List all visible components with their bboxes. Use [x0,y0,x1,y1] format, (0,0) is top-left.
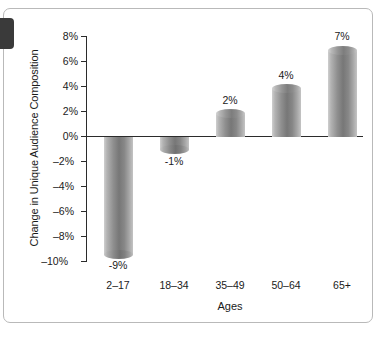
y-tick-label-0: 0% [34,130,78,142]
y-tick-label-m10: –10% [24,255,68,267]
y-tick-label-m8: –8% [30,230,74,242]
y-tick-label-2: 2% [34,105,78,117]
bar-2-17 [104,137,133,255]
bar-50-64 [272,88,301,137]
y-tick-label-m4: –4% [30,180,74,192]
x-category-label-18-34: 18–34 [144,279,204,291]
y-tick-label-m2: –2% [30,155,74,167]
x-category-label-65-plus: 65+ [312,279,372,291]
bar-cap-18-34 [160,145,189,154]
bar-value-label-50-64: 4% [256,69,316,81]
x-category-label-50-64: 50–64 [256,279,316,291]
bar-chart: Change in Unique Audience Composition 8%… [0,0,379,337]
y-tick-label-6: 6% [34,55,78,67]
bar-value-label-65-plus: 7% [312,30,372,42]
bar-value-label-35-49: 2% [200,94,260,106]
y-axis-line [86,36,87,262]
bar-cap-65-plus [328,46,357,55]
bar-65-plus [328,50,357,137]
y-tick-label-4: 4% [34,80,78,92]
y-tick-label-m6: –6% [30,205,74,217]
x-category-label-35-49: 35–49 [200,279,260,291]
bar-cap-35-49 [216,109,245,118]
bar-cap-2-17 [104,250,133,259]
bar-value-label-2-17: -9% [88,259,148,271]
bar-cap-50-64 [272,84,301,93]
x-axis-title: Ages [88,300,372,312]
y-tick-label-8: 8% [34,30,78,42]
bar-value-label-18-34: -1% [144,155,204,167]
chart-screenshot: Change in Unique Audience Composition 8%… [0,0,379,337]
x-category-label-2-17: 2–17 [88,279,148,291]
